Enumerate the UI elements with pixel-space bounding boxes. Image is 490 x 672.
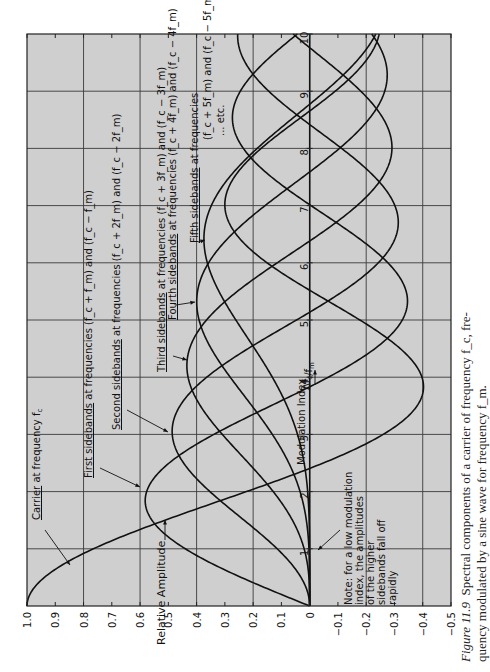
amplitude-tick-label: −0.4 [418, 612, 429, 636]
y-axis-label: Relative Amplitude [155, 541, 168, 645]
note-text-1: Note: for a low modulation [343, 472, 354, 605]
amplitude-tick-label: 0.6 [135, 612, 146, 628]
amplitude-tick-label: 0.9 [50, 612, 61, 628]
amplitude-tick-label: 0 [305, 612, 316, 618]
note-text-4: sidebands fall off [376, 518, 387, 605]
figure-caption: Figure 11.9 Spectral components of a car… [458, 312, 490, 662]
amplitude-tick-label: −0.1 [333, 612, 344, 636]
amplitude-tick-label: −0.2 [361, 612, 372, 636]
amplitude-tick-label: 1.0 [22, 612, 33, 628]
figure-label: Figure 11.9 [458, 602, 473, 662]
x-axis-label: Modulation Index [296, 379, 307, 465]
amplitude-tick-label: 0.8 [79, 612, 90, 628]
note-text-2: index, the amplitudes [354, 496, 365, 605]
amplitude-tick-label: 0.1 [276, 612, 287, 628]
index-tick-label: 5 [299, 321, 310, 327]
etc-label: ... etc. [215, 105, 226, 136]
index-tick-label: 8 [299, 149, 310, 155]
amplitude-tick-label: −0.3 [389, 612, 400, 636]
caption-line-2: quency modulated by a sine wave for freq… [474, 312, 490, 662]
amplitude-tick-label: 0.4 [192, 612, 203, 628]
first-sidebands-label: First sidebands at frequencies (f_c + f_… [83, 190, 95, 478]
index-tick-label: 9 [299, 92, 310, 98]
index-tick-label: 2 [299, 492, 310, 498]
caption-line-1: Spectral components of a carrier of freq… [458, 312, 473, 595]
index-tick-label: 6 [299, 264, 310, 270]
index-tick-label: 7 [299, 206, 310, 212]
second-sidebands-label: Second sidebands at frequencies (f_c + 2… [111, 114, 123, 430]
amplitude-tick-label: 0.7 [107, 612, 118, 628]
note-text-3: of the higher [365, 540, 376, 605]
amplitude-tick-label: 0.3 [220, 612, 231, 628]
note-text-5: rapidly [387, 571, 398, 605]
fourth-sidebands-label: Fourth sidebands at frequencies (f_c + 4… [167, 8, 179, 320]
index-tick-label: 1 [299, 550, 310, 556]
amplitude-tick-label: −0.5 [446, 612, 457, 636]
fifth-sidebands-freq-label: (f_c + 5f_m) and (f_c − 5f_m) [202, 0, 214, 140]
fifth-sidebands-label: Fifth sidebands at frequencies [189, 93, 200, 243]
amplitude-tick-label: 0.2 [248, 612, 259, 628]
